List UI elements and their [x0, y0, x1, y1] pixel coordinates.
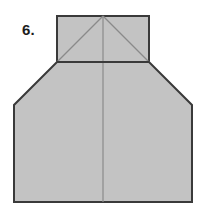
- figure-diagram-container: 6.: [0, 0, 208, 220]
- figure-number-label: 6.: [22, 22, 35, 37]
